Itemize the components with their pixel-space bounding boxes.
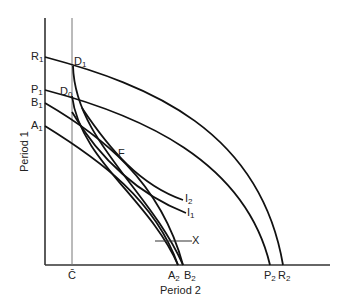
label-r1: R1	[31, 51, 43, 64]
label-c-bar: C̄	[68, 270, 76, 281]
label-a2: A2	[168, 270, 180, 283]
frontier-p	[45, 90, 270, 265]
label-a1: A1	[31, 120, 43, 133]
label-p2: P2	[264, 270, 276, 283]
diagram-canvas	[0, 0, 343, 305]
label-b1: B1	[31, 97, 43, 110]
label-i1: I1	[187, 207, 195, 220]
label-d1: D1	[74, 56, 86, 69]
indifference-i1	[72, 112, 186, 213]
label-x: X	[192, 235, 199, 246]
diagram: R1 P1 B1 A1 D1 D0 F I2 I1 X C̄ A2 B2 P2 …	[0, 0, 343, 305]
x-axis-title: Period 2	[160, 284, 201, 296]
label-r2: R2	[278, 270, 290, 283]
label-f: F	[118, 148, 125, 159]
label-d0: D0	[60, 86, 72, 99]
label-i2: I2	[185, 193, 193, 206]
y-axis-title: Period 1	[18, 131, 30, 172]
label-b2: B2	[184, 270, 196, 283]
